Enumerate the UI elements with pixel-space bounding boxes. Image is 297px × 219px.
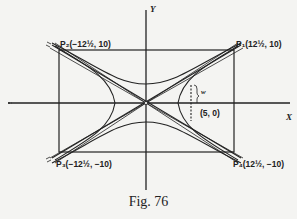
point-p3-label: P₃(−12½, −10) (56, 159, 112, 169)
focus-point-label: (5, 0) (200, 108, 220, 118)
point-p1-label: P₁(12½, 10) (236, 39, 282, 49)
y-axis-label: Y (150, 4, 157, 14)
figure-caption: Fig. 76 (0, 194, 297, 210)
point-p2-label: P₂(−12½, 10) (60, 39, 111, 49)
w-brace (194, 85, 199, 103)
point-p4-label: P₄(12½, −10) (233, 159, 284, 169)
w-label: w (201, 88, 206, 96)
hyperbola-diagram: Y X P₂(−12½, 10) P₁(12½, 10) P₃(−12½, −1… (0, 0, 297, 219)
x-axis-label: X (285, 112, 293, 122)
